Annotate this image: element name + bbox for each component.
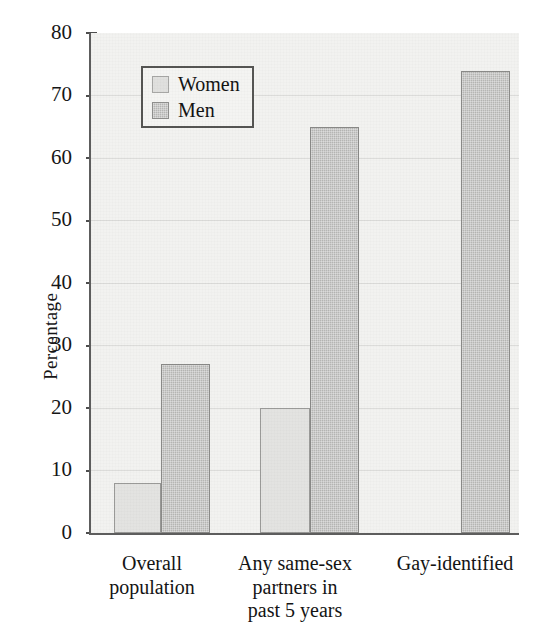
y-tick-label-50: 50 (28, 209, 72, 230)
legend-label-women: Women (178, 74, 240, 94)
category-label-line: Gay-identified (380, 552, 530, 576)
y-tick-label-0: 0 (28, 522, 72, 543)
bar-women-overall-population (114, 483, 161, 533)
category-label-line: past 5 years (215, 599, 375, 623)
category-label-line: partners in (215, 576, 375, 600)
gridline-30 (91, 345, 519, 346)
y-tick-label-20: 20 (28, 397, 72, 418)
plot-area: (Insufficient data) Women Men (89, 33, 519, 535)
bar-chart-figure: Percentage 80 70 60 50 40 30 20 10 0 (In… (0, 0, 541, 640)
category-label-overall-population: Overall population (92, 552, 212, 599)
category-label-line: population (92, 576, 212, 600)
bar-men-overall-population (161, 364, 210, 533)
legend-entry-women: Women (152, 71, 240, 97)
bar-men-gay-identified (461, 71, 510, 533)
category-label-line: Overall (92, 552, 212, 576)
bar-women-any-same-sex-partners (260, 408, 310, 533)
y-tick-label-40: 40 (28, 272, 72, 293)
y-tick-label-60: 60 (28, 147, 72, 168)
gridline-60 (91, 158, 519, 159)
legend: Women Men (141, 66, 254, 128)
legend-swatch-men-icon (152, 102, 169, 119)
gridline-40 (91, 283, 519, 284)
category-label-gay-identified: Gay-identified (380, 552, 530, 576)
legend-swatch-women-icon (152, 76, 169, 93)
category-label-any-same-sex-partners: Any same-sex partners in past 5 years (215, 552, 375, 623)
legend-label-men: Men (178, 100, 215, 120)
y-tick-label-80: 80 (28, 22, 72, 43)
gridline-50 (91, 220, 519, 221)
legend-entry-men: Men (152, 97, 215, 123)
category-label-line: Any same-sex (215, 552, 375, 576)
y-tick-label-70: 70 (28, 84, 72, 105)
bar-men-any-same-sex-partners (310, 127, 359, 533)
y-tick-label-10: 10 (28, 459, 72, 480)
y-tick-label-30: 30 (28, 334, 72, 355)
